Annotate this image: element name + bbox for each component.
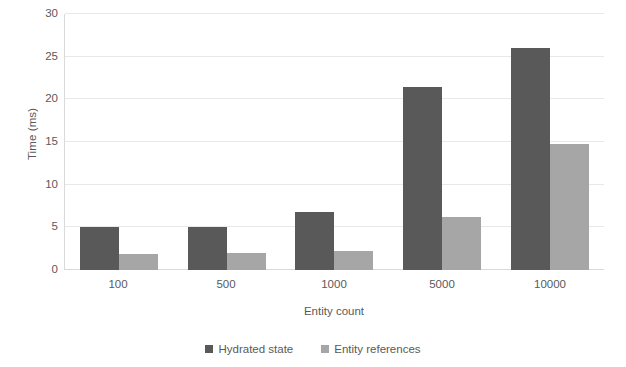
bar[interactable] [188,227,227,270]
x-axis-tick-labels: 1005001000500010000 [64,278,604,290]
y-axis-tick-label: 30 [18,8,58,20]
bar[interactable] [511,48,550,270]
y-axis-tick-label: 25 [18,51,58,63]
legend-item[interactable]: Hydrated state [205,343,293,355]
bar[interactable] [403,87,442,270]
chart-legend: Hydrated stateEntity references [0,343,626,355]
bar-group [65,14,173,270]
legend-item[interactable]: Entity references [321,343,420,355]
bar[interactable] [119,254,158,270]
legend-swatch-icon [321,345,329,353]
bar[interactable] [295,212,334,270]
y-axis-tick-label: 0 [18,264,58,276]
legend-label: Hydrated state [218,343,293,355]
y-axis-tick-labels: 051015202530 [18,0,58,290]
bar[interactable] [334,251,373,270]
bar[interactable] [550,144,589,270]
y-axis-tick-label: 20 [18,94,58,106]
bar[interactable] [442,217,481,270]
y-axis-tick-label: 5 [18,222,58,234]
legend-swatch-icon [205,345,213,353]
bar-chart: Time (ms) 051015202530 10050010005000100… [0,0,626,367]
y-axis-tick-label: 10 [18,179,58,191]
bar[interactable] [80,227,119,270]
bars-layer [65,14,604,270]
bar-group [388,14,496,270]
y-axis-tick-label: 15 [18,136,58,148]
x-axis-tick-label: 100 [64,278,172,290]
x-axis-tick-label: 1000 [280,278,388,290]
x-axis-tick-label: 10000 [496,278,604,290]
x-axis-tick-label: 5000 [388,278,496,290]
x-axis-title: Entity count [64,305,604,317]
legend-label: Entity references [334,343,420,355]
bar[interactable] [227,253,266,270]
x-axis-tick-label: 500 [172,278,280,290]
plot-area [64,14,604,270]
bar-group [496,14,604,270]
bar-group [173,14,281,270]
bar-group [281,14,389,270]
